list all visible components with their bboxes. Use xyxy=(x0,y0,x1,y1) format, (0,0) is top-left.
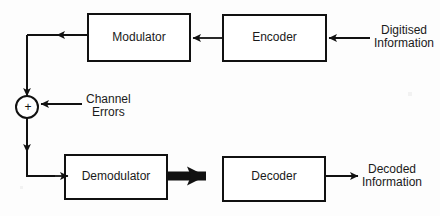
scan-artifact xyxy=(20,186,23,189)
label-decoded-information: Decoded Information xyxy=(362,163,422,189)
summing-junction-plus-sign: + xyxy=(23,101,33,113)
block-label-demodulator: Demodulator xyxy=(65,170,167,183)
connector-sum-to-demodulator xyxy=(27,140,55,176)
diagram-canvas: Modulator Encoder Demodulator Decoder + … xyxy=(0,0,440,216)
label-digitised-information-line2: Information xyxy=(374,37,434,50)
label-channel-errors: Channel Errors xyxy=(86,93,131,119)
label-decoded-information-line2: Information xyxy=(362,176,422,189)
block-label-modulator: Modulator xyxy=(88,31,190,44)
label-channel-errors-line2: Errors xyxy=(86,106,131,119)
block-label-encoder: Encoder xyxy=(223,31,326,44)
block-label-decoder: Decoder xyxy=(223,170,325,183)
label-digitised-information: Digitised Information xyxy=(374,24,434,50)
scan-artifact xyxy=(408,92,412,96)
